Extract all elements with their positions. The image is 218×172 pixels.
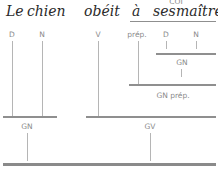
subject-gn-label: GN bbox=[21, 122, 32, 131]
stem-subject-gn bbox=[27, 133, 28, 161]
stem-d-1 bbox=[12, 41, 13, 116]
gn-prep-bar bbox=[129, 84, 216, 86]
label-v: V bbox=[95, 30, 100, 39]
sentence-bar bbox=[3, 163, 216, 166]
label-n-2: N bbox=[193, 30, 199, 39]
stem-d-2 bbox=[166, 41, 167, 49]
word-ses: ses bbox=[153, 3, 176, 19]
inner-gn-label: GN bbox=[176, 58, 187, 67]
coi-underline bbox=[130, 21, 216, 22]
label-d-1: D bbox=[9, 30, 15, 39]
gv-bar bbox=[86, 116, 216, 118]
word-le: Le bbox=[6, 3, 24, 19]
stem-n-2 bbox=[196, 41, 197, 49]
stem-inner-gn bbox=[181, 69, 182, 77]
label-prep: prép. bbox=[127, 30, 146, 39]
word-obeit: obéit bbox=[84, 3, 120, 19]
subject-gn-bar bbox=[3, 116, 57, 118]
word-a: à bbox=[132, 3, 140, 19]
stem-v bbox=[98, 41, 99, 116]
label-n-1: N bbox=[39, 30, 45, 39]
word-maitres: maîtres. bbox=[176, 3, 218, 19]
label-d-2: D bbox=[163, 30, 169, 39]
stem-prep bbox=[138, 41, 139, 84]
stem-n-1 bbox=[42, 41, 43, 116]
gn-prep-label: GN prép. bbox=[156, 91, 189, 100]
inner-gn-bar bbox=[156, 53, 216, 55]
gv-label: GV bbox=[145, 122, 156, 131]
stem-gv bbox=[150, 133, 151, 161]
word-chien: chien bbox=[27, 3, 66, 19]
